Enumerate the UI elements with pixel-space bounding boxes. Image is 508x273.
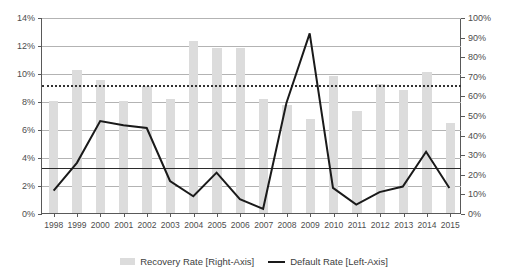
bar-swatch-icon xyxy=(120,258,135,265)
x-axis-tick xyxy=(357,213,358,217)
right-axis-tick-label: 70% xyxy=(468,72,486,82)
x-axis-tick xyxy=(77,213,78,217)
left-axis-tick-label: 14% xyxy=(17,13,35,23)
legend-item-recovery-rate: Recovery Rate [Right-Axis] xyxy=(120,256,254,267)
right-axis-tick-label: 30% xyxy=(468,150,486,160)
right-axis-tick-label: 20% xyxy=(468,170,486,180)
x-axis-label-2010: 2010 xyxy=(324,220,343,230)
x-axis-label-2009: 2009 xyxy=(301,220,320,230)
x-axis-label-2008: 2008 xyxy=(278,220,297,230)
x-axis-tick xyxy=(194,213,195,217)
line-swatch-icon xyxy=(268,261,285,263)
left-axis-tick-label: 8% xyxy=(22,97,35,107)
x-axis-label-2013: 2013 xyxy=(394,220,413,230)
x-axis-tick xyxy=(310,213,311,217)
right-axis-tick-label: 60% xyxy=(468,91,486,101)
x-axis-label-1998: 1998 xyxy=(44,220,63,230)
right-axis-tick xyxy=(461,116,465,117)
right-axis-tick xyxy=(461,57,465,58)
right-axis-tick xyxy=(461,155,465,156)
right-axis-tick xyxy=(461,175,465,176)
right-axis-tick xyxy=(461,38,465,39)
x-axis-label-2004: 2004 xyxy=(184,220,203,230)
chart-container: 0%2%4%6%8%10%12%14% 0%10%20%30%40%50%60%… xyxy=(0,0,508,273)
x-axis-tick xyxy=(427,213,428,217)
line-series-default-rate xyxy=(42,18,461,213)
left-axis-tick-label: 4% xyxy=(22,153,35,163)
right-axis-tick xyxy=(461,194,465,195)
x-axis-label-2007: 2007 xyxy=(254,220,273,230)
x-axis-tick xyxy=(334,213,335,217)
right-axis-tick-label: 0% xyxy=(468,209,481,219)
x-axis-label-2005: 2005 xyxy=(208,220,227,230)
x-axis-tick xyxy=(240,213,241,217)
legend-label-recovery-rate: Recovery Rate [Right-Axis] xyxy=(140,256,254,267)
right-axis-tick-label: 80% xyxy=(468,52,486,62)
legend-label-default-rate: Default Rate [Left-Axis] xyxy=(290,256,388,267)
left-axis-tick-label: 12% xyxy=(17,41,35,51)
legend-item-default-rate: Default Rate [Left-Axis] xyxy=(268,256,388,267)
right-axis-tick-label: 10% xyxy=(468,189,486,199)
x-axis-tick xyxy=(287,213,288,217)
x-axis-tick xyxy=(100,213,101,217)
x-axis-label-2011: 2011 xyxy=(348,220,366,230)
x-axis-label-2012: 2012 xyxy=(371,220,390,230)
right-axis-tick-label: 50% xyxy=(468,111,486,121)
plot-inner: 0%2%4%6%8%10%12%14% 0%10%20%30%40%50%60%… xyxy=(42,18,461,213)
right-axis-tick xyxy=(461,214,465,215)
default-rate-line xyxy=(54,33,450,209)
left-axis-tick-label: 2% xyxy=(22,181,35,191)
x-axis-tick xyxy=(380,213,381,217)
x-axis-label-2000: 2000 xyxy=(91,220,110,230)
right-axis-tick-label: 100% xyxy=(468,13,491,23)
x-axis-tick xyxy=(450,213,451,217)
x-axis-label-2015: 2015 xyxy=(441,220,460,230)
right-axis-tick-label: 90% xyxy=(468,33,486,43)
x-axis-tick xyxy=(147,213,148,217)
x-axis-label-2002: 2002 xyxy=(138,220,157,230)
right-axis-tick-label: 40% xyxy=(468,131,486,141)
x-axis-label-1999: 1999 xyxy=(68,220,87,230)
left-axis-tick xyxy=(38,214,42,215)
right-axis-tick xyxy=(461,77,465,78)
right-axis-tick xyxy=(461,136,465,137)
plot-area: 0%2%4%6%8%10%12%14% 0%10%20%30%40%50%60%… xyxy=(41,18,461,214)
x-axis-label-2014: 2014 xyxy=(418,220,437,230)
x-axis-label-2003: 2003 xyxy=(161,220,180,230)
x-axis-label-2001: 2001 xyxy=(114,220,133,230)
x-axis-tick xyxy=(404,213,405,217)
x-axis-tick xyxy=(264,213,265,217)
x-axis-tick xyxy=(54,213,55,217)
x-axis-tick xyxy=(170,213,171,217)
chart-legend: Recovery Rate [Right-Axis] Default Rate … xyxy=(0,256,508,267)
left-axis-tick-label: 0% xyxy=(22,209,35,219)
right-axis-tick xyxy=(461,96,465,97)
x-axis-label-2006: 2006 xyxy=(231,220,250,230)
x-axis-tick xyxy=(217,213,218,217)
left-axis-tick-label: 10% xyxy=(17,69,35,79)
x-axis-tick xyxy=(124,213,125,217)
right-axis-tick xyxy=(461,18,465,19)
left-axis-tick-label: 6% xyxy=(22,125,35,135)
